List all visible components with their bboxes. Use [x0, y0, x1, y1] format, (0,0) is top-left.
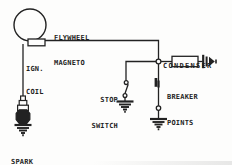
junction-node — [156, 59, 161, 64]
label-ign-coil-line1: IGN. — [26, 66, 44, 74]
label-stop-switch: STOP SWITCH — [84, 79, 118, 148]
ignition-system-diagram: FLYWHEEL MAGNETO IGN. COIL SPARK PLUG ST… — [0, 0, 232, 165]
label-condenser-line1: CONDENSER — [163, 62, 213, 71]
label-stop-switch-line1: STOP — [84, 96, 118, 105]
label-condenser: CONDENSER — [163, 45, 213, 88]
label-ign-coil-line2: COIL — [26, 89, 44, 97]
label-spark-plug: SPARK PLUG — [11, 141, 33, 165]
junction-to-stop-switch-wire — [126, 62, 156, 81]
stop-switch-symbol — [117, 81, 134, 112]
flywheel-magneto-symbol — [14, 9, 46, 41]
label-flywheel-magneto-line1: FLYWHEEL — [54, 34, 89, 43]
label-ign-coil: IGN. COIL — [26, 50, 44, 112]
label-breaker-points-line2: POINTS — [167, 119, 198, 128]
label-flywheel-magneto: FLYWHEEL MAGNETO — [54, 17, 89, 86]
label-spark-plug-line1: SPARK — [11, 158, 33, 165]
label-breaker-points-line1: BREAKER — [167, 93, 198, 102]
ignition-coil-symbol — [28, 39, 45, 46]
label-flywheel-magneto-line2: MAGNETO — [54, 59, 89, 68]
label-stop-switch-line2: SWITCH — [84, 122, 118, 131]
